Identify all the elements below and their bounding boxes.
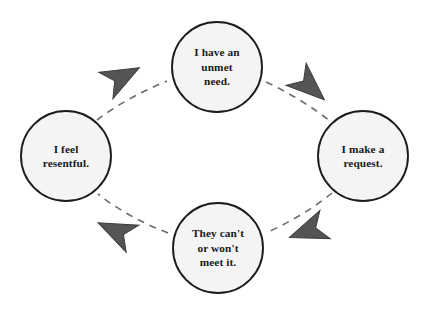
connector-request-to-meet <box>268 193 332 232</box>
node-circle-group <box>21 22 408 293</box>
node-circle-request[interactable] <box>318 111 408 201</box>
arrowhead-request-to-meet <box>284 210 330 251</box>
arrowhead-need-to-request <box>286 63 334 111</box>
connector-resentful-to-need <box>97 81 167 120</box>
arrowhead-resentful-to-need <box>99 54 147 98</box>
cycle-diagram: I have an unmet need. I make a request. … <box>0 0 429 314</box>
node-circle-need[interactable] <box>172 22 262 112</box>
cycle-diagram-canvas <box>0 0 429 314</box>
node-circle-meet[interactable] <box>173 203 263 293</box>
node-circle-resentful[interactable] <box>21 111 111 201</box>
